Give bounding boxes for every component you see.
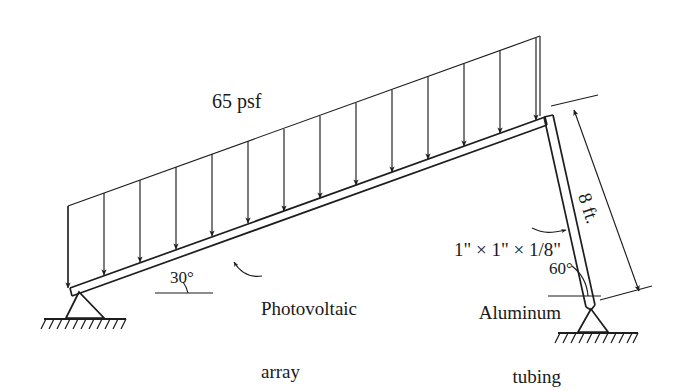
pin-support-left bbox=[41, 292, 126, 329]
extension-line-bottom bbox=[600, 286, 652, 300]
photovoltaic-array-label-line2: array bbox=[261, 361, 357, 382]
photovoltaic-array-label: Photovoltaic array bbox=[261, 255, 357, 391]
beam-angle-label: 30° bbox=[170, 268, 194, 287]
support-triangle-right bbox=[578, 309, 608, 332]
tubing-type-line: tubing bbox=[409, 366, 561, 387]
ground-hatching-left bbox=[41, 319, 126, 329]
photovoltaic-array-label-line1: Photovoltaic bbox=[261, 298, 357, 319]
ground-hatching-right bbox=[555, 333, 638, 343]
leader-line-array bbox=[234, 262, 262, 276]
column-top-cap bbox=[544, 115, 553, 117]
pin-support-right bbox=[555, 309, 638, 343]
beam-left-cap bbox=[70, 288, 72, 296]
tubing-material-line: Aluminum bbox=[409, 302, 561, 323]
distributed-load-label: 65 psf bbox=[212, 90, 261, 112]
tubing-section-line: 1" × 1" × 1/8" bbox=[409, 239, 561, 260]
extension-line-top bbox=[551, 95, 598, 106]
leader-photovoltaic-array bbox=[234, 262, 262, 276]
load-block-top-edge bbox=[68, 36, 540, 206]
aluminum-tubing-label: 1" × 1" × 1/8" Aluminum tubing bbox=[409, 196, 561, 391]
